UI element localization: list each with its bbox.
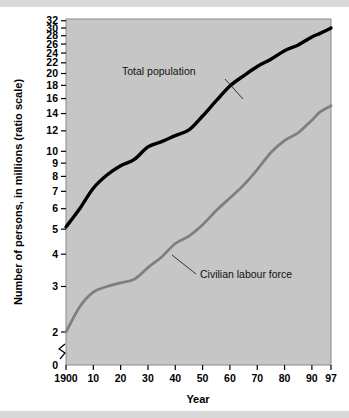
y-tick-label-zero: 0: [52, 359, 58, 371]
x-axis-ticks: [66, 365, 331, 370]
y-axis-break-symbol: [59, 344, 65, 359]
y-tick-label: 2: [52, 326, 58, 338]
x-axis-title: Year: [186, 393, 210, 405]
y-axis-tick-labels: 234567891012141618202224262830320: [46, 14, 58, 370]
x-tick-label: 50: [197, 372, 209, 384]
y-tick-label: 12: [46, 124, 58, 136]
bottom-divider-rule: [0, 411, 349, 418]
x-tick-label: 90: [306, 372, 318, 384]
x-tick-label: 70: [251, 372, 263, 384]
y-tick-label: 18: [46, 79, 58, 91]
annotation-label: Total population: [122, 65, 196, 77]
line-chart: 234567891012141618202224262830320 190010…: [0, 0, 349, 418]
y-tick-label: 32: [46, 14, 58, 26]
x-tick-label: 40: [169, 372, 181, 384]
y-axis-title: Number of persons, in millions (ratio sc…: [12, 79, 24, 305]
y-tick-label: 14: [46, 107, 58, 119]
y-tick-label: 9: [52, 157, 58, 169]
x-tick-label: 1900: [54, 372, 78, 384]
y-tick-label: 16: [46, 92, 58, 104]
x-tick-label: 97: [325, 372, 337, 384]
x-tick-label: 20: [115, 372, 127, 384]
y-tick-label: 8: [52, 170, 58, 182]
top-divider-rule: [0, 0, 349, 7]
axis-break-zigzag: [59, 344, 65, 359]
y-tick-label: 4: [52, 248, 58, 260]
x-tick-label: 80: [279, 372, 291, 384]
y-tick-label: 20: [46, 67, 58, 79]
figure-container: 234567891012141618202224262830320 190010…: [0, 0, 349, 418]
x-tick-label: 30: [142, 372, 154, 384]
x-axis-tick-labels: 190010203040506070809097: [54, 372, 337, 384]
y-tick-label: 10: [46, 145, 58, 157]
x-tick-label: 10: [87, 372, 99, 384]
y-tick-label: 6: [52, 202, 58, 214]
x-tick-label: 60: [224, 372, 236, 384]
y-axis-ticks: [61, 21, 66, 332]
y-tick-label: 5: [52, 223, 58, 235]
plot-area-background: [66, 19, 331, 365]
annotation-label: Civilian labour force: [200, 268, 292, 280]
y-tick-label: 7: [52, 185, 58, 197]
y-tick-label: 3: [52, 280, 58, 292]
